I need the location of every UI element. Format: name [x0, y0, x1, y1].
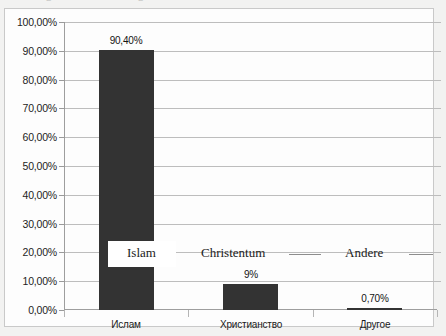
- y-axis-tick-label: 50,00%: [5, 160, 57, 172]
- cut-off-text-above-chart: g g: [0, 0, 446, 6]
- x-axis-tick: [64, 310, 65, 317]
- y-axis-tick-label: 30,00%: [5, 218, 57, 230]
- y-axis-tick: [59, 108, 65, 109]
- annotation-andere-leader-line: [409, 254, 433, 255]
- y-axis-tick-label: 20,00%: [5, 246, 57, 258]
- y-axis-tick: [59, 281, 65, 282]
- y-axis-tick: [59, 137, 65, 138]
- y-axis-tick-label: 60,00%: [5, 131, 57, 143]
- y-axis-tick-label: 40,00%: [5, 189, 57, 201]
- y-axis-tick: [59, 166, 65, 167]
- y-axis-tick-label: 80,00%: [5, 74, 57, 86]
- y-axis-tick-label: 10,00%: [5, 275, 57, 287]
- y-axis-tick: [59, 252, 65, 253]
- cut-off-text-fragment-right: g: [138, 0, 144, 1]
- annotation-christentum-leader-line: [289, 254, 321, 255]
- bar: [347, 308, 402, 310]
- annotation-christentum: Christentum: [201, 245, 265, 261]
- bar: [99, 50, 154, 310]
- x-axis-category-label: Другое: [360, 319, 391, 330]
- y-axis-tick-label: 100,00%: [5, 16, 57, 28]
- x-axis-category-label: Христианство: [220, 319, 282, 330]
- x-axis-tick: [188, 310, 189, 317]
- gridline: [64, 22, 441, 23]
- y-axis-tick-label: 70,00%: [5, 102, 57, 114]
- chart-frame: 0,00%10,00%20,00%30,00%40,00%50,00%60,00…: [4, 8, 434, 327]
- bar-value-label: 9%: [244, 269, 258, 280]
- y-axis-tick-label: 90,00%: [5, 45, 57, 57]
- x-axis-tick: [437, 310, 438, 317]
- bar: [223, 284, 278, 310]
- y-axis-tick: [59, 195, 65, 196]
- cut-off-text-fragment-left: g: [46, 0, 52, 1]
- y-axis-tick: [59, 51, 65, 52]
- x-axis-tick: [313, 310, 314, 317]
- y-axis-tick: [59, 80, 65, 81]
- y-axis-tick: [59, 22, 65, 23]
- y-axis-tick: [59, 224, 65, 225]
- x-axis-category-label: Ислам: [111, 319, 140, 330]
- y-axis-tick-label: 0,00%: [5, 304, 57, 316]
- bar-value-label: 90,40%: [110, 35, 143, 46]
- annotation-andere: Andere: [345, 245, 383, 261]
- annotation-islam: Islam: [127, 245, 156, 261]
- bar-value-label: 0,70%: [361, 293, 388, 304]
